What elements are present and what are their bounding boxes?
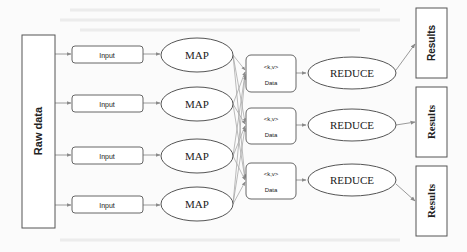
input-label: Input: [99, 52, 115, 60]
data-label: Data: [265, 132, 278, 138]
map-label: MAP: [185, 150, 209, 162]
map-node: MAP: [161, 87, 233, 121]
input-label: Input: [99, 101, 115, 109]
results-node: Results: [416, 87, 447, 157]
data-node: <k,v> Data: [246, 163, 296, 199]
data-node: <k,v> Data: [246, 108, 296, 144]
data-label: Data: [265, 80, 278, 86]
results-node: Results: [416, 8, 447, 78]
input-node: Input: [72, 147, 143, 164]
edges-raw-to-input: [55, 54, 71, 205]
edges-input-to-map: [143, 54, 160, 205]
data-kv-label: <k,v>: [264, 171, 279, 177]
reduce-node: REDUCE: [308, 109, 396, 141]
map-label: MAP: [185, 98, 209, 110]
data-node: <k,v> Data: [246, 55, 296, 92]
edges-reduce-to-results: [396, 44, 415, 201]
map-label: MAP: [185, 198, 209, 210]
data-label: Data: [265, 187, 278, 193]
reduce-node: REDUCE: [308, 57, 396, 89]
map-node: MAP: [161, 139, 233, 173]
results-label: Results: [425, 104, 437, 139]
input-node: Input: [72, 196, 143, 213]
map-label: MAP: [185, 49, 209, 61]
input-label: Input: [99, 153, 115, 161]
reduce-label: REDUCE: [330, 119, 374, 131]
results-label: Results: [426, 25, 437, 62]
raw-data-node: Raw data: [22, 35, 55, 228]
reduce-label: REDUCE: [330, 67, 374, 79]
map-node: MAP: [161, 187, 233, 221]
edges-map-to-data: [233, 55, 245, 204]
mapreduce-diagram: Raw data Input Input Input Input MAP MAP: [0, 0, 467, 252]
data-kv-label: <k,v>: [264, 116, 279, 122]
reduce-label: REDUCE: [330, 174, 374, 186]
map-node: MAP: [161, 38, 233, 72]
edges-data-to-reduce: [296, 73, 306, 180]
input-node: Input: [72, 46, 143, 63]
data-kv-label: <k,v>: [264, 64, 279, 70]
raw-data-label: Raw data: [32, 106, 44, 155]
results-label: Results: [425, 183, 437, 218]
reduce-node: REDUCE: [308, 164, 396, 196]
input-label: Input: [99, 202, 115, 210]
results-node: Results: [416, 166, 447, 236]
input-node: Input: [72, 95, 143, 112]
